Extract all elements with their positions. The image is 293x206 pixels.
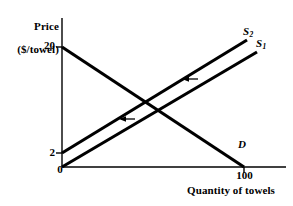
demand-curve (62, 47, 244, 167)
x-tick-label-100: 100 (228, 170, 261, 182)
supply-original-label: S1 (256, 38, 266, 50)
demand-label: D (238, 139, 246, 151)
supply-shifted-subscript: 2 (249, 30, 253, 39)
y-tick-label-2: 2 (38, 147, 55, 159)
supply-shifted-label: S2 (243, 26, 253, 38)
origin-label: 0 (54, 164, 66, 176)
y-axis-title-line1: Price (34, 20, 59, 32)
supply-demand-figure: Price ($/towel) Quantity of towels 20 2 … (0, 0, 293, 206)
y-tick-label-20: 20 (38, 40, 55, 52)
supply-original-subscript: 1 (262, 42, 266, 51)
x-axis-title: Quantity of towels (175, 185, 287, 197)
supply-curve-original (62, 52, 257, 167)
supply-curve-shifted (62, 40, 247, 153)
